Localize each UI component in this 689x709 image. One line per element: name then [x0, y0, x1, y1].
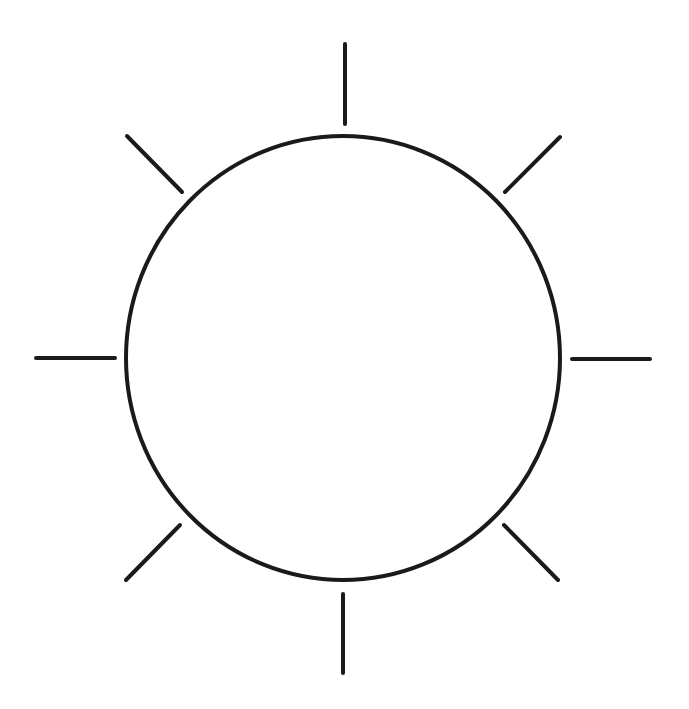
sun-drawing [0, 0, 689, 709]
ray-top-left [127, 136, 182, 192]
sun-circle [126, 136, 560, 580]
sun-icon [0, 0, 689, 709]
ray-bottom-left [126, 525, 180, 580]
ray-bottom-right [504, 525, 558, 580]
ray-top-right [505, 137, 560, 192]
